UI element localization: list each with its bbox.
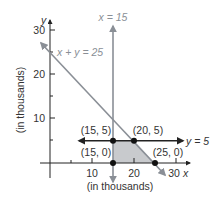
x-tick-30: 30	[168, 167, 180, 179]
point-15-0	[110, 160, 116, 166]
linear-programming-graph: 30 20 10 10 20 30 y x (in thousands) (in…	[0, 0, 210, 208]
label-x-15: x = 15	[98, 11, 128, 23]
y-axis-name: y	[40, 14, 47, 26]
point-25-0	[152, 160, 158, 166]
point-15-5	[110, 138, 116, 144]
point-20-5	[131, 138, 137, 144]
y-axis	[50, 20, 55, 178]
x-tick-10: 10	[86, 167, 98, 179]
x-axis-name: x	[182, 167, 189, 179]
y-tick-10: 10	[33, 112, 45, 124]
label-point-25-0: (25, 0)	[153, 146, 183, 158]
label-x-plus-y-25: x + y = 25	[56, 46, 103, 58]
x-tick-20: 20	[128, 167, 140, 179]
label-point-15-0: (15, 0)	[81, 146, 111, 158]
label-y-5: y = 5	[185, 135, 209, 147]
label-point-15-5: (15, 5)	[81, 124, 111, 136]
x-axis-title: (in thousands)	[87, 180, 154, 192]
y-axis-title: (in thousands)	[14, 67, 26, 134]
y-tick-20: 20	[33, 68, 45, 80]
label-point-20-5: (20, 5)	[133, 124, 163, 136]
